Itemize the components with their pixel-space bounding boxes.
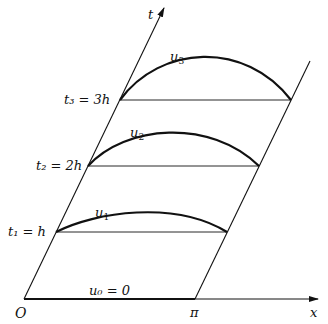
base-label-u0: u₀ = 0 xyxy=(89,284,130,297)
curve-label-u3: u3 xyxy=(170,50,184,66)
right-boundary xyxy=(195,61,310,299)
curve-label-u2: u2 xyxy=(130,126,144,142)
t-axis-label: t xyxy=(148,8,153,21)
level-label-t3: t₃ = 3h xyxy=(64,93,110,106)
origin-label: O xyxy=(15,306,26,320)
curve-label-u1: u1 xyxy=(95,206,109,222)
curve-u2 xyxy=(88,133,259,166)
level-label-t2: t₂ = 2h xyxy=(36,159,82,172)
curve-u3 xyxy=(120,57,291,100)
level-label-t1: t₁ = h xyxy=(8,225,46,238)
pi-label: π xyxy=(190,306,199,319)
diagram-canvas: t x O π t₁ = h t₂ = 2h t₃ = 3h u1 u2 u3 … xyxy=(0,0,328,324)
curve-u1 xyxy=(56,212,227,232)
x-axis-label: x xyxy=(310,306,317,319)
t-axis xyxy=(24,8,164,299)
